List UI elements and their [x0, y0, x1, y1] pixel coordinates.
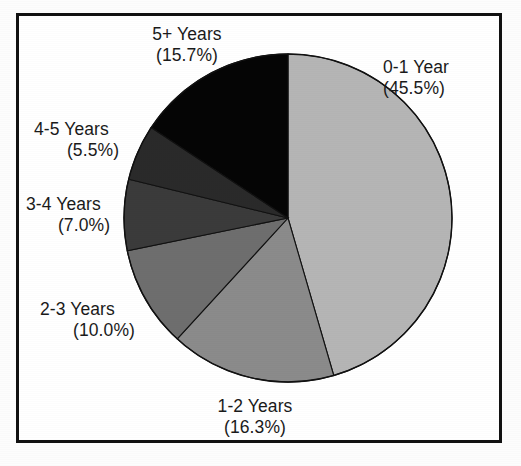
slice-label-5-plus-years: 5+ Years (15.7%) [112, 24, 262, 65]
slice-label-4-5-years: 4-5 Years (5.5%) [34, 119, 164, 160]
slice-label-1-2-years: 1-2 Years (16.3%) [185, 396, 325, 437]
slice-label-0-1-year: 0-1 Year (45.5%) [383, 57, 449, 98]
slice-label-3-4-years-name: 3-4 Years [26, 194, 156, 215]
figure-container: 0-1 Year (45.5%) 5+ Years (15.7%) 4-5 Ye… [0, 0, 521, 466]
slice-label-1-2-years-name: 1-2 Years [185, 396, 325, 417]
slice-label-2-3-years: 2-3 Years (10.0%) [40, 299, 180, 340]
slice-label-5-plus-years-name: 5+ Years [112, 24, 262, 45]
slice-label-1-2-years-percent: (16.3%) [185, 417, 325, 438]
slice-label-5-plus-years-percent: (15.7%) [112, 45, 262, 66]
slice-label-3-4-years: 3-4 Years (7.0%) [26, 194, 156, 235]
slice-label-3-4-years-percent: (7.0%) [26, 215, 142, 236]
slice-label-4-5-years-name: 4-5 Years [34, 119, 164, 140]
slice-label-2-3-years-name: 2-3 Years [40, 299, 180, 320]
slice-label-2-3-years-percent: (10.0%) [40, 320, 168, 341]
slice-label-4-5-years-percent: (5.5%) [34, 140, 152, 161]
slice-label-0-1-year-name: 0-1 Year [383, 57, 449, 78]
slice-label-0-1-year-percent: (45.5%) [383, 78, 449, 99]
